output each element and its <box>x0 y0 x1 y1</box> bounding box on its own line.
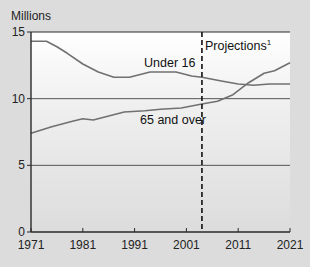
y-tick-label: 0 <box>18 225 25 239</box>
x-tick-label: 1991 <box>121 238 148 252</box>
x-tick-label: 2001 <box>173 238 200 252</box>
y-axis-unit-label: Millions <box>11 9 51 23</box>
x-tick-label: 2021 <box>277 238 304 252</box>
projections-label: Projections1 <box>205 38 272 53</box>
y-tick-label: 10 <box>12 92 26 106</box>
y-tick-label: 15 <box>12 25 26 39</box>
x-tick-label: 1971 <box>18 238 45 252</box>
y-tick-label: 5 <box>18 158 25 172</box>
under-16-label: Under 16 <box>144 56 195 70</box>
65-and-over-label: 65 and over <box>140 113 206 127</box>
y-axis-ticks: 051015 <box>12 25 31 239</box>
line-chart: Millions 051015 197119811991200120112021… <box>0 0 310 267</box>
x-tick-label: 1981 <box>69 238 96 252</box>
x-tick-label: 2011 <box>225 238 251 252</box>
